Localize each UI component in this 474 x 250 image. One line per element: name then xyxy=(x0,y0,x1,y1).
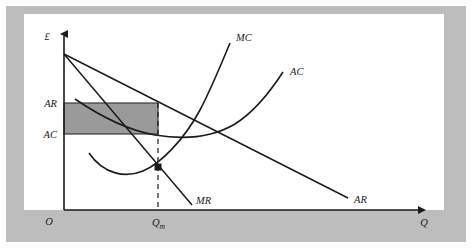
equilibrium-point-marker xyxy=(155,164,162,171)
mr-curve-label: MR xyxy=(195,195,212,206)
ac-cost-value-label: AC xyxy=(43,129,58,140)
mc-curve-label: MC xyxy=(235,32,253,43)
diagram-canvas: £ Q O AR AC Qm MC AC MR AR xyxy=(0,0,474,250)
qm-value-label: Qm xyxy=(152,217,166,231)
x-axis-label: Q xyxy=(420,217,428,228)
figure-root: £ Q O AR AC Qm MC AC MR AR xyxy=(0,0,474,250)
profit-rectangle xyxy=(64,103,158,134)
origin-label: O xyxy=(45,216,53,227)
ac-curve-label: AC xyxy=(289,66,304,77)
qm-subscript: m xyxy=(160,222,166,231)
ar-curve-label: AR xyxy=(353,194,367,205)
ar-price-value-label: AR xyxy=(43,98,57,109)
y-axis-label: £ xyxy=(44,31,50,42)
